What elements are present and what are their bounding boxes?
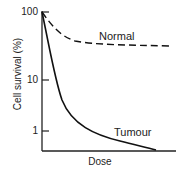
x-axis-label: Dose	[88, 157, 112, 167]
tumour-series-label: Tumour	[114, 127, 152, 138]
y-axis-label: Cell survival (%)	[13, 34, 23, 114]
y-tick-label-1: 1	[8, 126, 38, 136]
y-tick-label-100: 100	[8, 7, 38, 17]
plot-area	[0, 0, 182, 172]
normal-series-label: Normal	[99, 31, 134, 42]
cell-survival-chart: 100 10 1 Cell survival (%) Dose Normal T…	[0, 0, 182, 172]
